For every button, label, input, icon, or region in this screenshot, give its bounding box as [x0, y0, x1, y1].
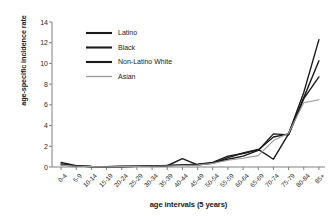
- series-line-latino: [61, 40, 319, 167]
- axis-lines: [52, 22, 325, 167]
- legend-label-non-latino-white: Non-Latino White: [118, 58, 172, 65]
- series-line-non-latino-white: [61, 77, 319, 167]
- chart-figure: age-specific incidence rate age interval…: [0, 0, 336, 221]
- legend-label-asian: Asian: [118, 73, 136, 80]
- plot-area: [0, 0, 336, 221]
- legend-label-latino: Latino: [118, 29, 137, 36]
- legend-label-black: Black: [118, 44, 135, 51]
- series-line-asian: [61, 100, 319, 167]
